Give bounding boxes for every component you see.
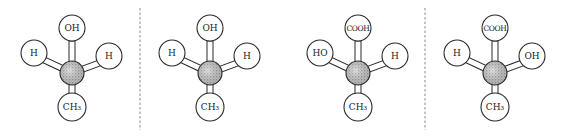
svg-text:HO: HO xyxy=(312,48,327,58)
molecule-3: COOH HO H CH₃ xyxy=(307,15,408,121)
atom-right: OH xyxy=(519,43,545,69)
atom-right: H xyxy=(234,43,260,69)
atom-left: H xyxy=(159,40,185,66)
atom-left: HO xyxy=(307,40,333,66)
atom-top: OH xyxy=(59,15,85,41)
atom-left: H xyxy=(21,40,47,66)
molecule-1: OH H H CH₃ xyxy=(21,15,122,121)
atom-left: H xyxy=(444,40,470,66)
svg-text:COOH: COOH xyxy=(484,24,508,33)
svg-text:CH₃: CH₃ xyxy=(63,102,82,112)
svg-text:CH₃: CH₃ xyxy=(486,102,505,112)
svg-text:CH₃: CH₃ xyxy=(201,102,220,112)
atom-top: COOH xyxy=(482,15,508,41)
svg-text:OH: OH xyxy=(64,23,79,33)
molecule-2: OH H H CH₃ xyxy=(159,15,260,121)
svg-text:H: H xyxy=(168,48,176,58)
molecule-4: COOH H OH CH₃ xyxy=(444,15,545,121)
atom-right: H xyxy=(382,43,408,69)
svg-text:H: H xyxy=(243,51,251,61)
atom-bottom: CH₃ xyxy=(58,93,86,121)
svg-text:H: H xyxy=(30,48,38,58)
atom-top: OH xyxy=(197,15,223,41)
svg-text:OH: OH xyxy=(524,51,539,61)
molecule-diagram: OH H H CH₃ OH H H CH₃ xyxy=(0,0,567,138)
atom-bottom: CH₃ xyxy=(196,93,224,121)
atom-right: H xyxy=(96,43,122,69)
svg-text:OH: OH xyxy=(202,23,217,33)
svg-text:H: H xyxy=(391,51,399,61)
atom-bottom: CH₃ xyxy=(344,93,372,121)
atom-bottom: CH₃ xyxy=(481,93,509,121)
svg-text:H: H xyxy=(453,48,461,58)
svg-text:H: H xyxy=(105,51,113,61)
svg-text:CH₃: CH₃ xyxy=(349,102,368,112)
svg-text:COOH: COOH xyxy=(347,24,371,33)
atom-top: COOH xyxy=(345,15,371,41)
